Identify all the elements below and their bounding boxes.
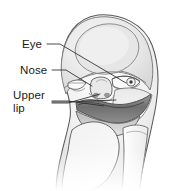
annotation-label-upper-lip-line2: lip — [13, 102, 25, 114]
figure-container: Eye Nose Upperlip — [0, 0, 190, 191]
right-pupil — [129, 80, 132, 83]
bottom-fade — [0, 150, 190, 191]
right-nostril — [104, 93, 109, 97]
annotation-label-upper-lip: Upperlip — [13, 89, 45, 115]
annotation-label-eye: Eye — [22, 38, 42, 51]
annotation-label-upper-lip-line1: Upper — [13, 89, 45, 101]
annotation-label-nose: Nose — [20, 64, 47, 77]
